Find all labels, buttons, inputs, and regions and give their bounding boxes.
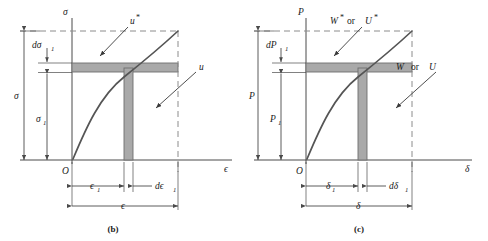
axis-label-epsilon-b: ϵ — [224, 164, 229, 174]
pointer-arrow-w-u-c — [396, 72, 436, 108]
svg-text:1: 1 — [51, 45, 54, 52]
panel-b: σ ϵ O u * u σ σ 1 dσ 1 ϵ 1 dϵ 1 — [0, 0, 244, 241]
svg-text:1: 1 — [97, 186, 100, 193]
svg-text:or: or — [411, 62, 420, 72]
pointer-arrow-u-b — [156, 72, 196, 108]
panel-b-canvas: σ ϵ O u * u σ σ 1 dσ 1 ϵ 1 dϵ 1 — [0, 0, 244, 241]
svg-text:dϵ: dϵ — [155, 181, 165, 191]
svg-text:W: W — [396, 62, 405, 72]
dimension-label-dsigma1-b: dσ 1 — [32, 40, 54, 52]
dimension-label-epsilon1-b: ϵ 1 — [90, 181, 100, 193]
svg-text:1: 1 — [285, 45, 288, 52]
svg-text:u: u — [130, 16, 135, 26]
panel-c: P δ O W * or U * W or U P P 1 dP 1 — [244, 0, 488, 241]
diagram-c: P δ O W * or U * W or U P P 1 dP 1 — [244, 0, 488, 241]
dimension-label-sigma-b: σ — [14, 91, 19, 101]
panel-caption-b: (b) — [108, 224, 119, 234]
svg-text:1: 1 — [173, 186, 176, 193]
dimension-label-delta-total-c: δ — [356, 201, 361, 211]
axis-label-P-c: P — [297, 7, 304, 17]
dimension-label-delta1-c: δ 1 — [326, 181, 335, 193]
region-label-w-u-c: W or U — [396, 62, 437, 72]
svg-text:P: P — [269, 114, 276, 124]
svg-text:δ: δ — [326, 181, 331, 191]
svg-text:1: 1 — [405, 186, 408, 193]
shaded-band-vertical-b — [124, 68, 133, 160]
svg-text:U: U — [365, 16, 373, 26]
svg-text:1: 1 — [332, 186, 335, 193]
axis-label-delta-c: δ — [465, 164, 470, 174]
svg-text:*: * — [340, 13, 344, 22]
axis-label-sigma-b: σ — [63, 7, 68, 17]
diagram-b: σ ϵ O u * u σ σ 1 dσ 1 ϵ 1 dϵ 1 — [0, 0, 244, 241]
dimension-label-ddelta1-c: dδ 1 — [389, 181, 408, 193]
svg-text:1: 1 — [278, 119, 281, 126]
dimension-label-sigma1-b: σ 1 — [36, 114, 46, 126]
svg-text:σ: σ — [36, 114, 41, 124]
panel-caption-c: (c) — [354, 224, 364, 234]
dimension-label-dP1-c: dP 1 — [266, 40, 288, 52]
region-label-u-b: u — [199, 62, 204, 72]
svg-text:W: W — [330, 16, 339, 26]
svg-text:dP: dP — [266, 40, 277, 50]
svg-text:dσ: dσ — [32, 40, 42, 50]
svg-text:*: * — [136, 13, 140, 22]
origin-label-b: O — [62, 166, 69, 176]
svg-text:dδ: dδ — [389, 181, 399, 191]
dimension-label-P-c: P — [248, 91, 255, 101]
dimension-label-depsilon1-b: dϵ 1 — [155, 181, 176, 193]
shaded-band-vertical-c — [358, 68, 367, 160]
region-label-wstar-ustar-c: W * or U * — [330, 13, 378, 26]
svg-text:1: 1 — [43, 119, 46, 126]
region-label-ustar-b: u * — [130, 13, 140, 26]
svg-text:or: or — [347, 16, 356, 26]
svg-text:*: * — [374, 13, 378, 22]
panel-c-canvas: P δ O W * or U * W or U P P 1 dP 1 — [244, 0, 488, 241]
dimension-label-P1-c: P 1 — [269, 114, 281, 126]
origin-label-c: O — [296, 166, 303, 176]
svg-text:U: U — [429, 62, 437, 72]
